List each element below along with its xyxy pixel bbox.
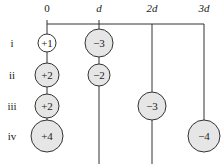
charge-circle: −3 bbox=[138, 92, 166, 120]
row-label: ii bbox=[9, 69, 15, 81]
row-label: i bbox=[10, 37, 13, 49]
svg-text:−4: −4 bbox=[198, 130, 210, 142]
row-label: iii bbox=[7, 100, 16, 112]
axis-lines bbox=[47, 20, 204, 164]
charge-circle: −3 bbox=[85, 29, 113, 57]
charge-diagram: 0 d 2d 3d i ii iii iv +1 −3 +2 −2 +2 bbox=[0, 0, 223, 165]
charge-circle: +1 bbox=[38, 34, 56, 52]
svg-text:+2: +2 bbox=[41, 69, 53, 81]
svg-text:−3: −3 bbox=[93, 37, 105, 49]
charge-circle: +2 bbox=[35, 63, 59, 87]
charges: +1 −3 +2 −2 +2 −3 +4 −4 bbox=[31, 29, 220, 152]
charge-circle: +2 bbox=[35, 94, 59, 118]
svg-text:+2: +2 bbox=[41, 100, 53, 112]
row-labels: i ii iii iv bbox=[7, 37, 16, 142]
column-label: 3d bbox=[198, 2, 211, 14]
column-label: 0 bbox=[44, 2, 50, 14]
charge-circle: +4 bbox=[31, 120, 63, 152]
column-labels: 0 d 2d 3d bbox=[44, 2, 210, 14]
column-label: d bbox=[96, 2, 102, 14]
svg-text:+4: +4 bbox=[41, 130, 53, 142]
row-label: iv bbox=[8, 130, 17, 142]
svg-text:−2: −2 bbox=[93, 69, 105, 81]
svg-text:−3: −3 bbox=[146, 100, 158, 112]
column-label: 2d bbox=[147, 2, 159, 14]
charge-circle: −2 bbox=[88, 64, 110, 86]
svg-text:+1: +1 bbox=[41, 37, 53, 49]
charge-circle: −4 bbox=[188, 120, 220, 152]
